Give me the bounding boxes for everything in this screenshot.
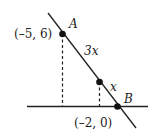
point-b-dot xyxy=(114,103,121,110)
point-b-coords: (–2, 0) xyxy=(74,116,112,130)
point-a-coords: (–5, 6) xyxy=(14,27,52,41)
segment-lower-label: x xyxy=(110,80,117,94)
point-a-label: A xyxy=(68,17,78,31)
point-a-dot xyxy=(59,31,66,38)
point-mid-dot xyxy=(96,79,103,86)
segment-upper-label: 3x xyxy=(84,44,99,58)
geometry-diagram: A (–5, 6) 3x x B (–2, 0) xyxy=(0,0,154,138)
point-b-label: B xyxy=(123,92,133,106)
slanted-line xyxy=(48,13,136,128)
